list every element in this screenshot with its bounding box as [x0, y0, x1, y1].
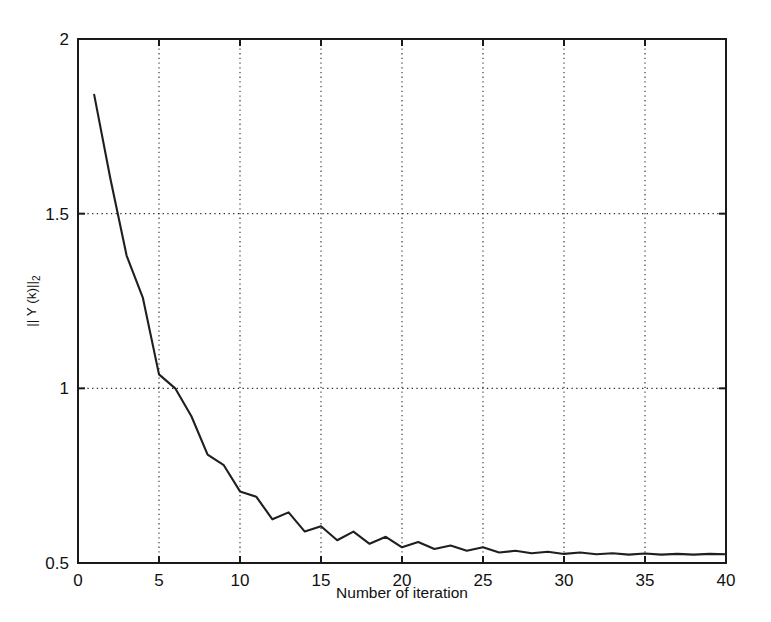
x-tick-label: 25: [474, 571, 493, 590]
svg-text:|| Y (k)||2: || Y (k)||2: [24, 275, 42, 327]
figure-container: 0510152025303540 21.510.5 Number of iter…: [0, 0, 771, 622]
x-tick-label: 5: [154, 571, 163, 590]
x-axis-title: Number of iteration: [336, 584, 468, 601]
y-tick-label: 2: [60, 30, 69, 49]
x-tick-label: 40: [717, 571, 736, 590]
x-tick-label: 30: [555, 571, 574, 590]
y-tick-label: 1.5: [45, 205, 69, 224]
y-axis-title-main: || Y (k)||: [24, 281, 39, 327]
y-tick-label: 1: [60, 379, 69, 398]
x-tick-label: 0: [73, 571, 82, 590]
plot-area-background: [78, 39, 726, 563]
convergence-line-chart: 0510152025303540 21.510.5 Number of iter…: [0, 0, 771, 622]
x-tick-label: 35: [636, 571, 655, 590]
y-axis-title-subscript: 2: [31, 275, 42, 281]
x-tick-label: 10: [231, 571, 250, 590]
x-tick-label: 15: [312, 571, 331, 590]
y-tick-labels: 21.510.5: [45, 30, 69, 573]
y-tick-label: 0.5: [45, 554, 69, 573]
y-axis-title: || Y (k)||2: [24, 275, 42, 327]
